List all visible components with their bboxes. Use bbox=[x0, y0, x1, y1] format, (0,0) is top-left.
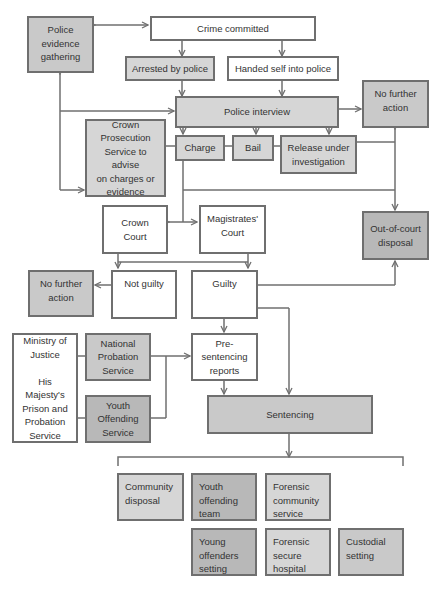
youth-offending-team-node: Youth offending team bbox=[191, 473, 257, 521]
node-label: Out-of-court disposal bbox=[370, 222, 421, 249]
node-label: Ministry of Justice His Majesty's Prison… bbox=[22, 334, 67, 442]
charge-node: Charge bbox=[175, 135, 225, 161]
pre-sentencing-reports-node: Pre- sentencing reports bbox=[191, 333, 258, 381]
handed-self-into-police-node: Handed self into police bbox=[227, 56, 339, 81]
youth-offending-service-node: Youth Offending Service bbox=[85, 395, 151, 443]
node-label: Crown Court bbox=[121, 216, 148, 243]
node-label: No further action bbox=[374, 87, 416, 114]
magistrates-court-node: Magistrates' Court bbox=[199, 205, 266, 254]
node-label: Bail bbox=[245, 141, 261, 155]
arrested-by-police-node: Arrested by police bbox=[125, 56, 215, 81]
bail-node: Bail bbox=[232, 135, 274, 161]
young-offenders-setting-node: Young offenders setting bbox=[191, 528, 257, 576]
release-under-investigation-node: Release under investigation bbox=[280, 135, 357, 174]
guilty-node: Guilty bbox=[191, 270, 258, 319]
police-evidence-gathering-node: Police evidence gathering bbox=[27, 16, 94, 73]
out-of-court-disposal-node: Out-of-court disposal bbox=[362, 211, 429, 260]
node-label: Custodial setting bbox=[346, 535, 386, 562]
crime-committed-node: Crime committed bbox=[150, 16, 316, 41]
node-label: Police interview bbox=[224, 105, 290, 119]
police-interview-node: Police interview bbox=[175, 96, 339, 128]
community-disposal-node: Community disposal bbox=[117, 473, 184, 521]
node-label: Not guilty bbox=[124, 277, 164, 291]
node-label: Forensic community service bbox=[273, 480, 319, 521]
cps-advice-node: Crown Prosecution Service to advise on c… bbox=[85, 119, 166, 197]
no-further-action-top-node: No further action bbox=[362, 80, 429, 128]
custodial-setting-node: Custodial setting bbox=[338, 528, 404, 576]
node-label: National Probation Service bbox=[98, 337, 139, 378]
no-further-action-mid-node: No further action bbox=[28, 270, 94, 317]
node-label: Pre- sentencing reports bbox=[202, 337, 248, 378]
node-label: Youth offending team bbox=[199, 480, 238, 521]
node-label: Young offenders setting bbox=[199, 535, 238, 576]
node-label: Crown Prosecution Service to advise on c… bbox=[90, 118, 161, 199]
node-label: Release under investigation bbox=[288, 141, 350, 168]
node-label: Arrested by police bbox=[132, 62, 208, 76]
node-label: Sentencing bbox=[266, 408, 314, 422]
node-label: No further action bbox=[40, 277, 82, 304]
node-label: Charge bbox=[184, 141, 215, 155]
national-probation-service-node: National Probation Service bbox=[85, 333, 151, 381]
node-label: Youth Offending Service bbox=[97, 399, 138, 440]
node-label: Police evidence gathering bbox=[41, 23, 81, 64]
node-label: Handed self into police bbox=[235, 62, 331, 76]
node-label: Magistrates' Court bbox=[207, 212, 258, 239]
crown-court-node: Crown Court bbox=[102, 205, 168, 254]
node-label: Forensic secure hospital bbox=[273, 535, 309, 576]
forensic-community-service-node: Forensic community service bbox=[265, 473, 331, 521]
ministry-of-justice-node: Ministry of Justice His Majesty's Prison… bbox=[12, 333, 78, 443]
not-guilty-node: Not guilty bbox=[111, 270, 177, 319]
node-label: Guilty bbox=[212, 277, 236, 291]
sentencing-node: Sentencing bbox=[207, 395, 373, 434]
forensic-secure-hospital-node: Forensic secure hospital bbox=[265, 528, 331, 576]
node-label: Community disposal bbox=[125, 480, 173, 507]
node-label: Crime committed bbox=[197, 22, 269, 36]
